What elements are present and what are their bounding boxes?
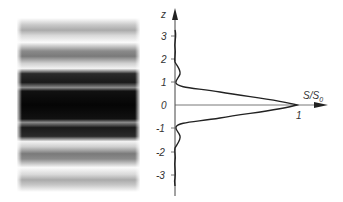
s-axis-label: S/S0 xyxy=(303,90,323,103)
y-tick-label-m2: -2 xyxy=(156,147,165,158)
z-axis-label: z xyxy=(160,9,166,20)
y-tick-label-m3: -3 xyxy=(156,170,165,181)
y-tick-label-3: 3 xyxy=(161,31,167,42)
y-tick-label-1: 1 xyxy=(161,77,167,88)
x-tick-label-1: 1 xyxy=(296,110,302,121)
z-axis-arrow-icon xyxy=(172,8,178,20)
intensity-curve xyxy=(175,30,297,186)
intensity-profile-plot: z 3 2 1 0 -1 -2 -3 1 S/S0 xyxy=(0,0,343,202)
y-tick-label-0: 0 xyxy=(161,100,167,111)
y-tick-label-2: 2 xyxy=(160,54,167,65)
s-label-subscript: 0 xyxy=(319,96,323,103)
y-tick-label-m1: -1 xyxy=(156,123,165,134)
